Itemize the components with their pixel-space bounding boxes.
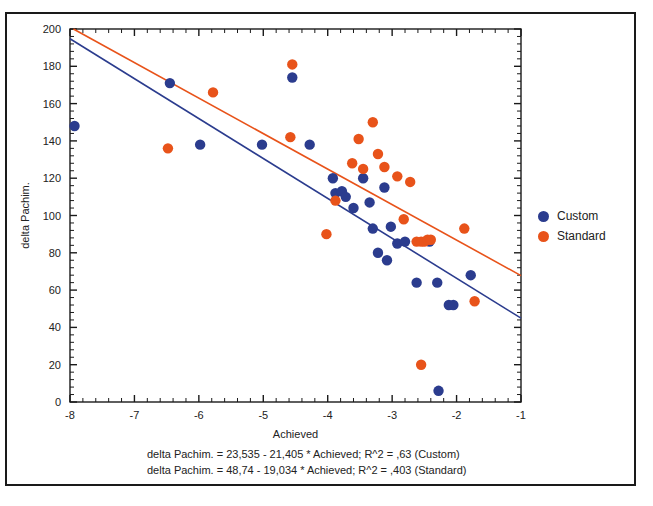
equation-line-custom: delta Pachim. = 23,535 - 21,405 * Achiev… (147, 448, 460, 460)
y-tick-label: 20 (49, 359, 61, 371)
data-point-custom (287, 72, 297, 82)
data-point-standard (358, 164, 368, 174)
y-tick-label: 160 (43, 98, 61, 110)
data-point-custom (364, 197, 374, 207)
data-point-custom (358, 173, 368, 183)
scatter-plot: -8-7-6-5-4-3-2-1020406080100120140160180… (7, 14, 638, 488)
figure-border: -8-7-6-5-4-3-2-1020406080100120140160180… (5, 12, 636, 486)
legend-item-standard[interactable]: Standard (538, 226, 606, 246)
regression-lines (70, 29, 521, 318)
legend-item-custom[interactable]: Custom (538, 206, 606, 226)
data-point-custom (165, 78, 175, 88)
data-point-custom (69, 121, 79, 131)
data-point-custom (466, 270, 476, 280)
data-point-standard (459, 223, 469, 233)
y-tick-label: 180 (43, 60, 61, 72)
data-point-standard (426, 235, 436, 245)
data-point-standard (353, 134, 363, 144)
y-tick-label: 80 (49, 247, 61, 259)
x-tick-label: -3 (387, 409, 397, 421)
equation-line-standard: delta Pachim. = 48,74 - 19,034 * Achieve… (147, 464, 466, 476)
x-tick-label: -2 (452, 409, 462, 421)
x-tick-label: -4 (323, 409, 333, 421)
legend: CustomStandard (538, 206, 606, 246)
data-point-custom (386, 221, 396, 231)
y-tick-label: 60 (49, 284, 61, 296)
legend-label: Standard (557, 229, 606, 243)
y-tick-label: 40 (49, 321, 61, 333)
data-point-standard (379, 162, 389, 172)
data-point-standard (405, 177, 415, 187)
data-point-custom (373, 248, 383, 258)
data-point-standard (330, 195, 340, 205)
equation-annotations: delta Pachim. = 23,535 - 21,405 * Achiev… (147, 448, 466, 476)
legend-marker-icon (538, 231, 549, 242)
x-tick-label: -5 (258, 409, 268, 421)
y-tick-label: 120 (43, 172, 61, 184)
plot-frame (70, 29, 521, 402)
data-point-custom (348, 203, 358, 213)
y-tick-label: 0 (55, 396, 61, 408)
data-point-standard (287, 59, 297, 69)
y-tick-label: 200 (43, 23, 61, 35)
axes-group (70, 29, 521, 402)
y-axis-title: delta Pachim. (19, 182, 31, 249)
x-tick-label: -8 (65, 409, 75, 421)
data-point-standard (208, 87, 218, 97)
axis-labels: -8-7-6-5-4-3-2-1020406080100120140160180… (19, 23, 526, 440)
data-point-custom (341, 192, 351, 202)
data-point-standard (285, 132, 295, 142)
data-point-custom (432, 277, 442, 287)
data-point-standard (368, 117, 378, 127)
data-point-standard (163, 143, 173, 153)
data-point-custom (400, 236, 410, 246)
chart-canvas: -8-7-6-5-4-3-2-1020406080100120140160180… (7, 14, 638, 488)
data-point-custom (257, 139, 267, 149)
data-point-custom (411, 277, 421, 287)
data-point-custom (195, 139, 205, 149)
y-tick-label: 140 (43, 135, 61, 147)
x-tick-label: -7 (130, 409, 140, 421)
data-point-custom (328, 173, 338, 183)
x-tick-label: -6 (194, 409, 204, 421)
data-point-standard (347, 158, 357, 168)
data-point-custom (433, 386, 443, 396)
data-point-standard (416, 360, 426, 370)
data-point-custom (382, 255, 392, 265)
data-point-custom (379, 182, 389, 192)
legend-marker-icon (538, 211, 549, 222)
y-tick-label: 100 (43, 210, 61, 222)
legend-label: Custom (557, 209, 598, 223)
data-point-custom (304, 139, 314, 149)
data-point-custom (368, 223, 378, 233)
x-tick-label: -1 (516, 409, 526, 421)
data-point-standard (373, 149, 383, 159)
data-point-standard (321, 229, 331, 239)
x-axis-title: Achieved (273, 428, 318, 440)
data-point-standard (392, 171, 402, 181)
data-point-custom (448, 300, 458, 310)
data-points (69, 59, 480, 396)
data-point-standard (399, 214, 409, 224)
data-point-standard (469, 296, 479, 306)
